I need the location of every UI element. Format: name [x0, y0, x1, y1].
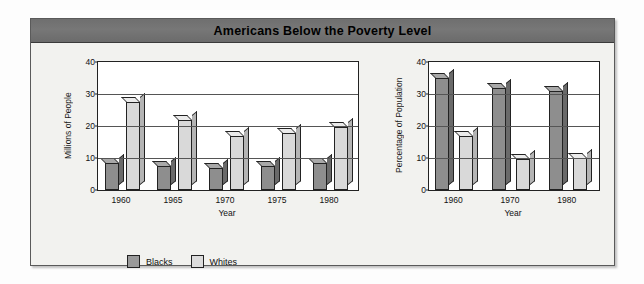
gridline	[429, 94, 599, 95]
plot-area-left: 010203040	[97, 61, 359, 191]
y-tick-mark	[95, 62, 98, 63]
chart-legend: Blacks Whites	[127, 255, 237, 268]
x-tick-label: 1960	[444, 195, 463, 205]
bar-front-face	[573, 158, 587, 190]
y-tick-label: 20	[86, 121, 95, 131]
bar-side-face	[223, 159, 228, 185]
legend-label-blacks: Blacks	[146, 257, 173, 267]
whites-swatch-icon	[191, 255, 204, 268]
x-tick-label: 1960	[112, 195, 131, 205]
y-tick-mark	[426, 94, 429, 95]
y-tick-mark	[95, 158, 98, 159]
chart-millions-of-people: Millions of People 010203040 19601965197…	[39, 43, 369, 267]
gridline	[429, 158, 599, 159]
legend-label-whites: Whites	[210, 257, 238, 267]
y-tick-label: 30	[86, 89, 95, 99]
y-tick-mark	[426, 190, 429, 191]
bar-front-face	[126, 102, 140, 190]
x-tick-label: 1980	[557, 195, 576, 205]
plot-area-right: 010203040	[428, 61, 600, 191]
bar-whites-1980	[573, 158, 587, 190]
gridline	[98, 126, 358, 127]
bar-blacks-1965	[157, 166, 171, 190]
y-tick-mark	[95, 94, 98, 95]
bar-front-face	[313, 163, 327, 190]
bar-side-face	[473, 127, 478, 185]
x-tick-label: 1980	[320, 195, 339, 205]
bar-side-face	[140, 93, 145, 185]
charts-row: Millions of People 010203040 19601965197…	[31, 43, 614, 267]
x-tick-label: 1970	[216, 195, 235, 205]
y-tick-label: 20	[417, 121, 426, 131]
y-tick-label: 40	[417, 57, 426, 67]
y-tick-mark	[426, 62, 429, 63]
legend-item-blacks: Blacks	[127, 255, 173, 268]
x-tick-label: 1970	[501, 195, 520, 205]
x-tick-label: 1975	[268, 195, 287, 205]
bar-blacks-1980	[549, 91, 563, 190]
bar-side-face	[192, 111, 197, 185]
bar-side-face	[530, 150, 535, 185]
chart-percentage-of-population: Percentage of Population 010203040 19601…	[376, 43, 611, 267]
y-tick-mark	[95, 126, 98, 127]
bar-front-face	[178, 120, 192, 190]
bar-whites-1965	[178, 120, 192, 190]
gridline	[98, 94, 358, 95]
bar-side-face	[587, 149, 592, 185]
blacks-swatch-icon	[127, 255, 140, 268]
bar-front-face	[209, 168, 223, 190]
bar-side-face	[275, 157, 280, 185]
y-tick-label: 30	[417, 89, 426, 99]
bar-whites-1970	[230, 136, 244, 190]
page-title: Americans Below the Poverty Level	[214, 24, 432, 38]
y-tick-label: 10	[417, 153, 426, 163]
bar-blacks-1980	[313, 163, 327, 190]
bar-front-face	[549, 91, 563, 190]
bar-side-face	[563, 82, 568, 185]
bar-front-face	[459, 136, 473, 190]
legend-item-whites: Whites	[191, 255, 238, 268]
bar-blacks-1960	[105, 163, 119, 190]
x-axis-label: Year	[504, 208, 521, 218]
bar-side-face	[296, 124, 301, 185]
x-tick-label: 1965	[164, 195, 183, 205]
bar-side-face	[171, 157, 176, 185]
bar-side-face	[449, 69, 454, 185]
y-tick-label: 10	[86, 153, 95, 163]
bar-front-face	[492, 88, 506, 190]
bar-side-face	[348, 118, 353, 185]
x-axis-label: Year	[218, 208, 235, 218]
bar-whites-1970	[516, 159, 530, 190]
bar-blacks-1970	[209, 168, 223, 190]
bar-whites-1960	[126, 102, 140, 190]
y-tick-mark	[426, 158, 429, 159]
bar-blacks-1970	[492, 88, 506, 190]
bar-front-face	[105, 163, 119, 190]
y-axis-label: Millions of People	[61, 61, 75, 191]
chart-title-banner: Americans Below the Poverty Level	[31, 19, 614, 43]
gridline	[98, 158, 358, 159]
bar-front-face	[230, 136, 244, 190]
scanned-page: Americans Below the Poverty Level Millio…	[0, 0, 644, 284]
bar-blacks-1975	[261, 166, 275, 190]
y-tick-mark	[426, 126, 429, 127]
bar-front-face	[261, 166, 275, 190]
y-tick-label: 40	[86, 57, 95, 67]
y-tick-mark	[95, 190, 98, 191]
figure-panel: Americans Below the Poverty Level Millio…	[30, 18, 615, 266]
y-axis-label: Percentage of Population	[392, 55, 406, 195]
bar-front-face	[516, 159, 530, 190]
bar-front-face	[282, 133, 296, 190]
bar-whites-1975	[282, 133, 296, 190]
gridline	[429, 126, 599, 127]
bar-whites-1960	[459, 136, 473, 190]
bar-side-face	[244, 127, 249, 185]
bar-front-face	[157, 166, 171, 190]
